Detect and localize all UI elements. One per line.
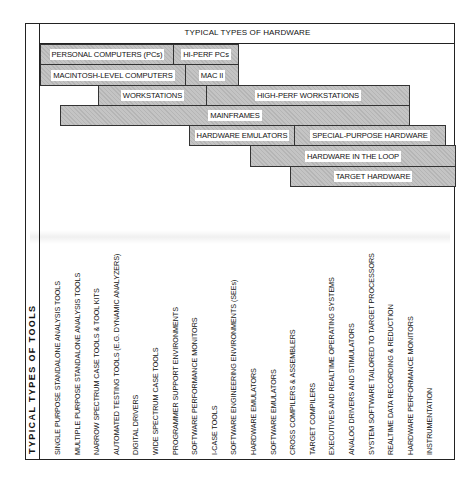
hardware-bar-label: PERSONAL COMPUTERS (PCs) <box>50 49 165 60</box>
tool-label: MULTIPLE PURPOSE STANDALONE ANALYSIS TOO… <box>72 155 84 455</box>
tool-label: WIDE SPECTRUM CASE TOOLS <box>150 155 162 455</box>
tool-label: SOFTWARE EMULATORS <box>268 155 280 455</box>
hardware-bar: PERSONAL COMPUTERS (PCs) <box>40 44 174 65</box>
hardware-bar-label: HARDWARE EMULATORS <box>195 130 290 141</box>
tool-label: SYSTEM SOFTWARE TAILORED TO TARGET PROCE… <box>366 155 378 455</box>
hardware-bar: HI-PERF PCs <box>173 44 239 65</box>
hardware-bar: HARDWARE EMULATORS <box>189 125 295 146</box>
tool-label: SOFTWARE ENGINEERING ENVIRONMENTS (SEEs) <box>228 155 240 455</box>
tool-label: ANALOG DRIVERS AND STIMULATORS <box>346 155 358 455</box>
tool-label: NARROW SPECTRUM CASE TOOLS & TOOL KITS <box>91 155 103 455</box>
hardware-bar-label: HIGH-PERF WORKSTATIONS <box>255 90 361 101</box>
tool-label: AUTOMATED TESTING TOOLS (E.G. DYNAMIC AN… <box>111 155 123 455</box>
hardware-bar: MAINFRAMES <box>60 105 410 126</box>
tool-label: EXECUTIVES AND REALTIME OPERATING SYSTEM… <box>326 155 338 455</box>
tool-label: SINGLE PURPOSE STANDALONE ANALYSIS TOOLS <box>52 155 64 455</box>
hardware-bar: WORKSTATIONS <box>98 85 207 106</box>
tool-label: I-CASE TOOLS <box>209 155 221 455</box>
tool-label: INSTRUMENTATION <box>424 155 436 455</box>
hardware-bar-label: HI-PERF PCs <box>181 49 231 60</box>
tools-title: TYPICAL TYPES OF TOOLS <box>25 23 40 460</box>
tool-label: HARDWARE PERFORMANCE MONITORS <box>405 155 417 455</box>
hardware-bar-label: MAC II <box>199 70 226 81</box>
hardware-bar-label: SPECIAL-PURPOSE HARDWARE <box>310 130 429 141</box>
hardware-bar: SPECIAL-PURPOSE HARDWARE <box>294 125 446 146</box>
tool-label: TARGET COMPILERS <box>307 155 319 455</box>
tool-label: DIGITAL DRIVERS <box>130 155 142 455</box>
hardware-bar: HIGH-PERF WORKSTATIONS <box>206 85 410 106</box>
hardware-bar: MACINTOSH-LEVEL COMPUTERS <box>40 64 186 86</box>
hardware-title: TYPICAL TYPES OF HARDWARE <box>40 23 455 44</box>
hardware-bar: MAC II <box>185 64 239 86</box>
hardware-bar-label: WORKSTATIONS <box>121 90 184 101</box>
tool-label: REALTIME DATA RECORDING & REDUCTION <box>385 155 397 455</box>
tool-label: HARDWARE EMULATORS <box>248 155 260 455</box>
tool-label: PROGRAMMER SUPPORT ENVIRONMENTS <box>170 155 182 455</box>
tool-label: SOFTWARE PERFORMANCE MONITORS <box>189 155 201 455</box>
tool-label: CROSS COMPILERS & ASSEMBLERS <box>287 155 299 455</box>
hardware-bar-label: MAINFRAMES <box>208 110 262 121</box>
hardware-bar-label: MACINTOSH-LEVEL COMPUTERS <box>51 70 174 81</box>
